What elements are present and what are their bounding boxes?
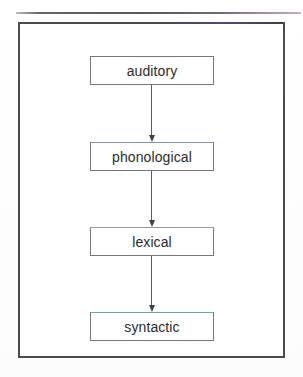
flow-arrow-auditory-to-phonological [151, 85, 153, 142]
flow-arrow-lexical-to-syntactic [151, 256, 153, 312]
arrow-head-icon [149, 305, 155, 312]
arrow-head-icon [149, 220, 155, 227]
node-label: phonological [112, 150, 192, 164]
flowchart: auditory phonological lexical syntactic [90, 56, 214, 341]
arrow-shaft [151, 256, 152, 306]
page-canvas: auditory phonological lexical syntactic [0, 0, 303, 377]
node-label: syntactic [124, 320, 179, 334]
arrow-shaft [151, 85, 152, 136]
flowchart-node-auditory[interactable]: auditory [90, 56, 214, 85]
flowchart-node-lexical[interactable]: lexical [90, 227, 214, 256]
flow-arrow-phonological-to-lexical [151, 171, 153, 227]
flowchart-node-syntactic[interactable]: syntactic [90, 312, 214, 341]
arrow-head-icon [149, 135, 155, 142]
node-label: lexical [132, 235, 172, 249]
arrow-shaft [151, 171, 152, 221]
node-label: auditory [127, 64, 178, 78]
flowchart-node-phonological[interactable]: phonological [90, 142, 214, 171]
top-horizontal-rule [16, 12, 301, 14]
